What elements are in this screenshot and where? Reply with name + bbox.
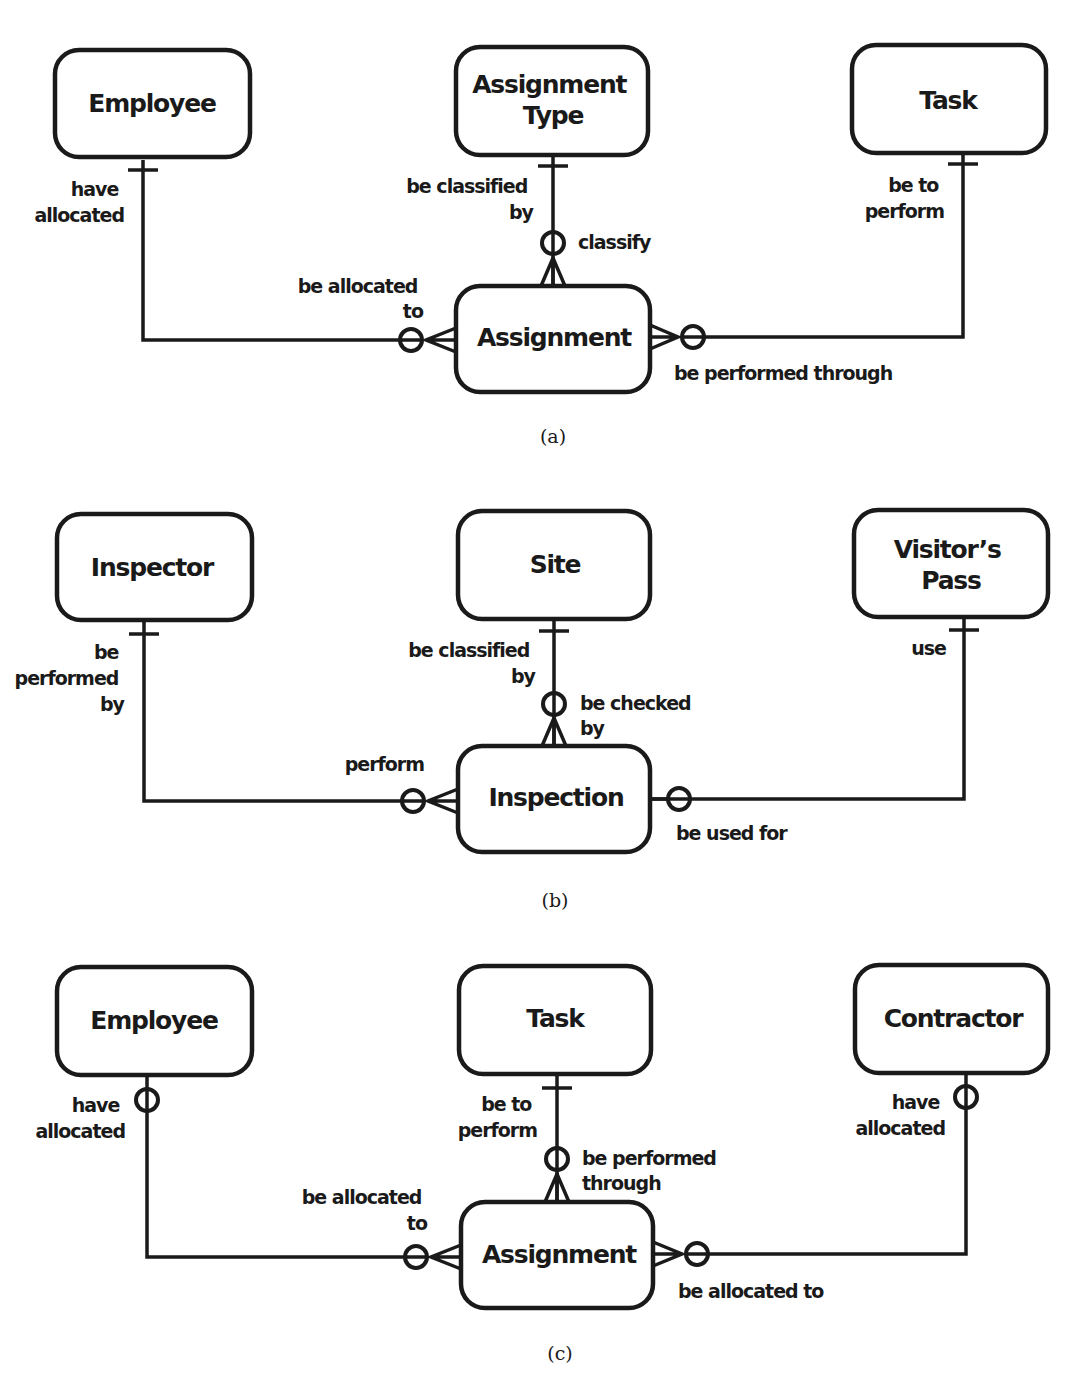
relationship-label: performed	[15, 667, 119, 689]
relationship-label: be to	[481, 1093, 532, 1115]
relationship-label: be	[94, 641, 119, 663]
relationship-label: allocated	[35, 1120, 125, 1142]
relationship-label: be used for	[676, 822, 788, 844]
svg-text:be checked by: be checked by	[580, 692, 696, 739]
entity-label: Pass	[921, 566, 981, 595]
relationship-label: allocated	[855, 1117, 945, 1139]
diagram-c: Employee have allocated Task be to perfo…	[35, 965, 1048, 1364]
crows-foot-icon	[426, 328, 456, 352]
svg-text:have allocated: have allocated	[35, 1094, 125, 1142]
relationship-label: by	[511, 665, 537, 687]
diagram-a: Employee have allocated Assignment Type …	[34, 45, 1046, 447]
svg-text:have allocated: have allocated	[34, 178, 124, 226]
entity-label: Task	[526, 1004, 586, 1033]
svg-text:be allocated to: be allocated to	[298, 275, 424, 322]
entity-label: Contractor	[884, 1004, 1025, 1033]
entity-label: Inspection	[488, 783, 623, 812]
figure-caption: (a)	[540, 425, 566, 447]
entity-label: Assignment	[477, 323, 632, 352]
relationship-label: be classified	[406, 175, 527, 197]
entity-label: Employee	[90, 1006, 218, 1035]
relationship-line-employee-assignment	[143, 160, 412, 340]
svg-text:be allocated to: be allocated to	[302, 1186, 428, 1234]
crows-foot-icon	[545, 1174, 569, 1202]
relationship-label: by	[580, 717, 606, 739]
relationship-label: by	[100, 693, 126, 715]
relationship-label: by	[509, 201, 535, 223]
relationship-label: to	[403, 300, 424, 322]
relationship-label: perform	[865, 200, 945, 222]
svg-text:be to perform: be to perform	[865, 174, 945, 222]
entity-label: Assignment	[482, 1240, 637, 1269]
relationship-label: allocated	[34, 204, 124, 226]
relationship-label: classify	[578, 231, 652, 253]
relationship-label: be classified	[408, 639, 529, 661]
crows-foot-icon	[650, 325, 678, 349]
relationship-label: be checked	[580, 692, 691, 714]
svg-text:have allocated: have allocated	[855, 1091, 945, 1139]
figure-caption: (b)	[542, 889, 569, 911]
relationship-label: through	[582, 1172, 661, 1194]
entity-label: Site	[530, 550, 581, 579]
relationship-line-employee-assignment	[147, 1076, 416, 1257]
crows-foot-icon	[428, 789, 458, 813]
svg-text:be performed through: be performed through	[582, 1147, 722, 1194]
entity-label: Type	[523, 101, 584, 130]
svg-text:be classified by: be classified by	[408, 639, 536, 687]
svg-text:be performed by: be performed by	[15, 641, 126, 715]
relationship-label: have	[892, 1091, 940, 1113]
entity-label: Task	[919, 86, 979, 115]
relationship-label: to	[407, 1212, 428, 1234]
entity-label: Assignment	[472, 70, 627, 99]
relationship-label: perform	[458, 1119, 538, 1141]
relationship-label: perform	[345, 753, 425, 775]
relationship-label: use	[911, 637, 946, 659]
relationship-label: have	[72, 1094, 120, 1116]
svg-text:be to perform: be to perform	[458, 1093, 538, 1141]
crows-foot-icon	[653, 1242, 682, 1266]
relationship-label: be to	[888, 174, 939, 196]
entity-label: Inspector	[91, 553, 215, 582]
relationship-label: have	[71, 178, 119, 200]
svg-text:be classified by: be classified by	[406, 175, 534, 223]
entity-label: Visitor’s	[894, 535, 1001, 564]
relationship-label: be allocated	[298, 275, 418, 297]
crows-foot-icon	[541, 258, 565, 286]
relationship-label: be performed through	[674, 362, 893, 384]
relationship-label: be performed	[582, 1147, 716, 1169]
figure-caption: (c)	[547, 1342, 572, 1364]
entity-label: Employee	[88, 89, 216, 118]
relationship-label: be allocated to	[678, 1280, 824, 1302]
crows-foot-icon	[431, 1245, 461, 1269]
diagram-b: Inspector be performed by Site be classi…	[15, 510, 1048, 911]
relationship-label: be allocated	[302, 1186, 422, 1208]
crows-foot-icon	[542, 718, 566, 746]
